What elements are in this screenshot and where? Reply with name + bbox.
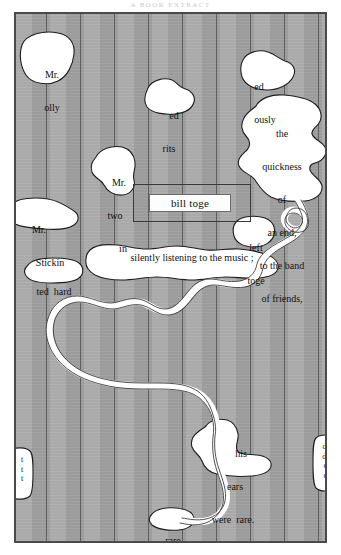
sliver-line: t: [14, 455, 30, 465]
fragment-line: rare: [153, 535, 193, 543]
fragment-line: Mr.: [32, 69, 72, 80]
fragment-line: ted hard: [28, 286, 80, 297]
fragment-line: rits: [150, 143, 188, 154]
sliver-line: t: [14, 474, 30, 484]
fragment-mr-olly: Mr. olly: [32, 47, 72, 135]
fragment-line: ears: [198, 481, 272, 492]
sliver-left-text: t t t: [14, 455, 30, 484]
fragment-rare: rare: [153, 513, 193, 543]
fragment-line: quickness: [240, 161, 324, 172]
sliver-right-text: d. d- d d: [316, 442, 327, 480]
sliver-line: d.: [316, 442, 327, 452]
fragment-ted-hard: ted hard: [28, 264, 80, 319]
fragment-line: were rare.: [194, 514, 272, 525]
fragment-line: the: [240, 128, 324, 139]
scanned-plate: bill toge Mr. olly ed rits ed ously the …: [14, 12, 327, 543]
fragment-left-toge: left toge: [238, 220, 274, 308]
fragment-line: ed: [243, 81, 275, 92]
sliver-line: d-: [316, 452, 327, 462]
fragment-line: Mr.: [104, 177, 134, 188]
fragment-line: his: [210, 448, 272, 459]
fragment-line: olly: [32, 102, 72, 113]
caption-box-text: bill toge: [171, 197, 209, 209]
fragment-line: toge: [238, 275, 274, 286]
caption-box: bill toge: [149, 194, 231, 212]
fragment-line: two: [96, 210, 134, 221]
band-text: silently listening to the music ;: [106, 252, 278, 264]
fragment-line: ed: [160, 110, 188, 121]
fragment-line: Mr.: [16, 224, 62, 235]
fragment-his-ears: his ears were rare.: [194, 426, 272, 543]
fragment-line: of: [240, 194, 324, 205]
sliver-line: t: [14, 465, 30, 475]
sliver-line: d: [316, 471, 327, 481]
sliver-line: d: [316, 461, 327, 471]
fragment-ed-rits: ed rits: [150, 88, 188, 176]
